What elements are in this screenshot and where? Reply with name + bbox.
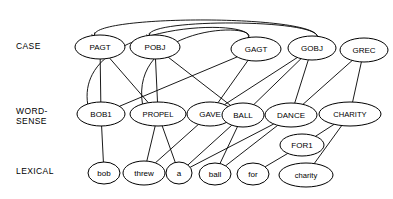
edge-charity-for1 [316, 124, 335, 136]
node-ball-label: ball [209, 170, 222, 179]
edge-propel-a [162, 126, 175, 163]
node-grec[interactable]: GREC [340, 38, 388, 62]
node-pobj[interactable]: POBJ [130, 35, 180, 59]
row-label-lexical: LEXICAL [16, 166, 54, 176]
node-gagt-label: GAGT [245, 45, 268, 54]
node-threw-label: threw [134, 169, 154, 178]
node-propel-label: PROPEL [143, 110, 174, 119]
node-for-label: for [248, 170, 258, 179]
diagram-canvas: PAGTPOBJGAGTGOBJGRECBOB1PROPELGAVEBALLDA… [0, 0, 393, 199]
node-gave-label: GAVE [199, 110, 221, 119]
edge-bob1-bob [102, 126, 104, 162]
node-pagt-label: PAGT [89, 43, 110, 52]
node-charity[interactable]: charity [279, 163, 333, 187]
edge-dance-ball [226, 125, 278, 166]
node-ball[interactable]: BALL [222, 103, 264, 127]
node-dance-label: DANCE [277, 111, 305, 120]
node-gobj-label: GOBJ [301, 44, 323, 53]
node-gagt[interactable]: GAGT [231, 37, 281, 61]
node-bob1-label: BOB1 [90, 110, 112, 119]
edge-pobj-propel [156, 59, 158, 102]
node-pobj-label: POBJ [145, 43, 166, 52]
node-charity[interactable]: CHARITY [319, 102, 381, 126]
node-propel[interactable]: PROPEL [130, 102, 186, 126]
node-bob1[interactable]: BOB1 [77, 102, 125, 126]
edge-grec-charity [353, 62, 362, 102]
edge-for1-for [265, 153, 288, 166]
semantic-network-graph: PAGTPOBJGAGTGOBJGRECBOB1PROPELGAVEBALLDA… [0, 0, 393, 199]
row-label-case: CASE [16, 41, 41, 51]
node-gobj[interactable]: GOBJ [288, 36, 336, 60]
node-charity-label: CHARITY [333, 110, 366, 119]
edge-ball-ball [220, 127, 238, 164]
node-for1-label: FOR1 [291, 141, 313, 150]
node-pagt[interactable]: PAGT [75, 35, 125, 59]
node-dance[interactable]: DANCE [265, 103, 317, 127]
node-a[interactable]: a [166, 162, 192, 184]
row-label-layer: CASEWORD-SENSELEXICAL [16, 41, 54, 176]
node-ball-label: BALL [233, 111, 253, 120]
edge-gobj-pobj [149, 23, 317, 39]
node-bob[interactable]: bob [88, 162, 120, 184]
row-label-word-sense: WORD-SENSE [16, 106, 48, 126]
node-for[interactable]: for [237, 163, 269, 185]
node-ball[interactable]: ball [199, 163, 231, 185]
edge-pagt-propel [110, 58, 149, 103]
node-charity-label: charity [295, 171, 318, 180]
edge-gobj-ball [254, 59, 301, 105]
row-label-word-sense-line-0: WORD- [16, 106, 48, 116]
row-label-case-line-0: CASE [16, 41, 41, 51]
edge-gobj-pagt [94, 20, 317, 39]
node-for1[interactable]: FOR1 [280, 134, 324, 156]
edge-gave-threw [155, 124, 198, 162]
node-bob-label: bob [97, 169, 111, 178]
edge-propel-threw [147, 126, 155, 161]
edge-ball-a [188, 125, 232, 165]
row-label-word-sense-line-1: SENSE [16, 116, 47, 126]
node-threw[interactable]: threw [123, 161, 165, 185]
node-a-label: a [177, 169, 182, 178]
edge-gagt-gave [218, 60, 248, 102]
edge-pagt-bob1 [100, 59, 101, 102]
edge-gobj-dance [295, 60, 309, 103]
node-grec-label: GREC [352, 46, 375, 55]
row-label-lexical-line-0: LEXICAL [16, 166, 54, 176]
node-layer: PAGTPOBJGAGTGOBJGRECBOB1PROPELGAVEBALLDA… [75, 35, 388, 187]
edge-gagt-bob1 [119, 57, 237, 106]
edge-grec-dance [303, 61, 352, 105]
